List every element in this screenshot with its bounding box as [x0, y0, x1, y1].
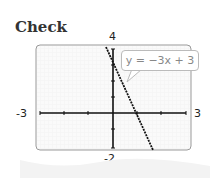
equation-callout: y = −3x + 3: [121, 50, 199, 71]
graph-screen: [0, 0, 219, 178]
torn-paper-edge: [20, 159, 210, 178]
